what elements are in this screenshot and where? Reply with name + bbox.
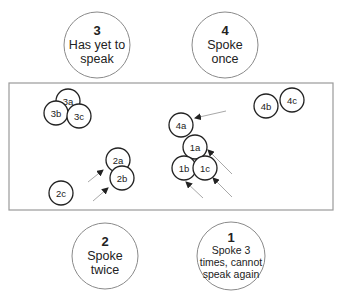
group-3-legend: 3Has yet tospeak (64, 12, 130, 78)
group-description-line: Spoke 3 (212, 244, 251, 256)
participant-label: 1a (190, 142, 201, 153)
participant-4b: 4b (254, 94, 278, 118)
group-number: 3 (93, 23, 100, 38)
group-number: 4 (221, 23, 229, 38)
group-description-line: twice (91, 263, 120, 277)
group-description-line: times, cannot (200, 256, 263, 268)
group-number: 1 (227, 230, 234, 245)
participant-3b: 3b (44, 101, 68, 125)
participant-4a: 4a (169, 113, 193, 137)
participant-2b: 2b (110, 166, 134, 190)
participant-label: 2b (117, 173, 128, 184)
group-description-line: Spoke (87, 249, 122, 263)
participant-label: 4a (176, 120, 187, 131)
participant-label: 4b (261, 101, 272, 112)
participant-label: 4c (287, 95, 297, 106)
participant-label: 3c (74, 111, 84, 122)
participant-label: 2a (113, 155, 124, 166)
group-2-legend: 2Spoketwice (72, 223, 138, 289)
participant-label: 1b (179, 163, 190, 174)
group-description-line: once (211, 52, 238, 66)
participant-3c: 3c (67, 104, 91, 128)
participant-2c: 2c (49, 181, 73, 205)
participant-label: 3b (51, 108, 62, 119)
group-number: 2 (101, 234, 108, 249)
speaking-order-diagram: 3Has yet tospeak4Spokeonce2Spoketwice1Sp… (0, 0, 342, 297)
participant-label: 1c (200, 163, 210, 174)
participant-label: 2c (56, 188, 66, 199)
group-description-line: speak (80, 52, 114, 66)
group-description-line: Spoke (207, 38, 242, 52)
group-4-legend: 4Spokeonce (192, 12, 258, 78)
participant-1a: 1a (183, 135, 207, 159)
group-1-legend: 1Spoke 3times, cannotspeak again (197, 222, 265, 290)
group-description-line: Has yet to (69, 38, 125, 52)
participant-4c: 4c (280, 88, 304, 112)
group-description-line: speak again (203, 268, 260, 280)
participant-1c: 1c (193, 156, 217, 180)
